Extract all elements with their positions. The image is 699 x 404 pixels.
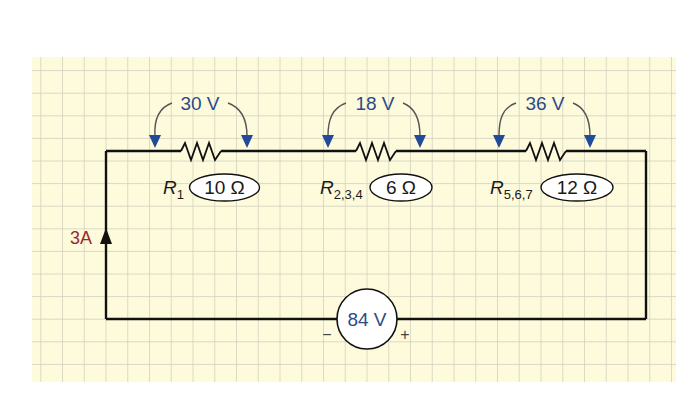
plus-terminal: +: [400, 326, 409, 343]
circuit-diagram: 30 V 18 V 36 V R1 10 Ω R2,3,4 6 Ω R5,6,7…: [0, 0, 699, 404]
svg-text:10 Ω: 10 Ω: [204, 177, 245, 198]
svg-text:84 V: 84 V: [347, 309, 386, 330]
voltage-drop-r567: 36 V: [525, 93, 564, 114]
voltage-drop-r1: 30 V: [180, 93, 219, 114]
current-label: 3A: [70, 228, 92, 248]
minus-terminal: −: [322, 326, 331, 343]
voltage-drop-r234: 18 V: [355, 93, 394, 114]
svg-text:6 Ω: 6 Ω: [386, 177, 416, 198]
svg-text:12 Ω: 12 Ω: [557, 177, 598, 198]
